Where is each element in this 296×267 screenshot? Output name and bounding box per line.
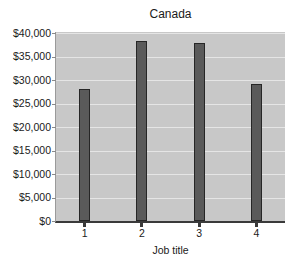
y-tick xyxy=(52,80,56,81)
x-tick-label: 3 xyxy=(179,227,219,239)
y-tick xyxy=(52,221,56,222)
y-tick-label: $30,000 xyxy=(0,74,51,87)
y-tick xyxy=(52,151,56,152)
y-tick-label: $0 xyxy=(0,215,51,228)
gridline xyxy=(56,80,285,81)
x-tick-label: 4 xyxy=(236,227,276,239)
y-tick-label: $35,000 xyxy=(0,50,51,63)
y-tick-label: $40,000 xyxy=(0,27,51,40)
y-tick xyxy=(52,57,56,58)
bar-2 xyxy=(136,41,147,221)
x-tick-label: 2 xyxy=(122,227,162,239)
bar-1 xyxy=(79,89,90,221)
gridline xyxy=(56,57,285,58)
y-tick-label: $20,000 xyxy=(0,121,51,134)
x-tick-label: 1 xyxy=(65,227,105,239)
x-tick xyxy=(198,223,201,227)
y-tick-label: $15,000 xyxy=(0,144,51,157)
y-tick xyxy=(52,174,56,175)
chart-title: Canada xyxy=(56,7,285,21)
y-tick-label: $5,000 xyxy=(0,191,51,204)
x-tick xyxy=(140,223,143,227)
y-tick xyxy=(52,127,56,128)
bar-3 xyxy=(194,43,205,221)
y-tick xyxy=(52,198,56,199)
bar-4 xyxy=(251,84,262,221)
y-tick xyxy=(52,104,56,105)
y-tick-label: $10,000 xyxy=(0,168,51,181)
gridline xyxy=(56,33,285,34)
x-tick xyxy=(83,223,86,227)
plot-area xyxy=(55,32,285,223)
y-tick xyxy=(52,33,56,34)
x-tick xyxy=(255,223,258,227)
y-tick-label: $25,000 xyxy=(0,97,51,110)
x-axis-title: Job title xyxy=(56,244,285,257)
chart-canvas: Canada $0$5,000$10,000$15,000$20,000$25,… xyxy=(0,0,296,267)
